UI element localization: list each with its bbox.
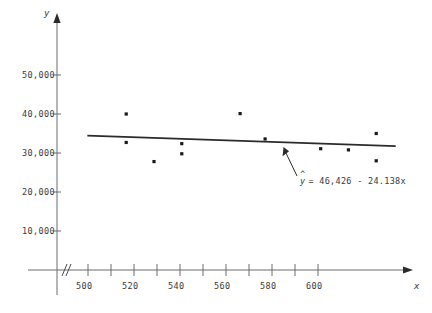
equation-text: = 46,426 - 24.138x xyxy=(308,176,406,186)
x-tick-label-540: 540 xyxy=(168,281,185,291)
x-tick-label-580: 580 xyxy=(260,281,277,291)
x-tick-label-600: 600 xyxy=(306,281,323,291)
x-axis-arrowhead xyxy=(403,266,413,273)
data-point xyxy=(264,137,267,140)
data-point xyxy=(375,159,378,162)
y-hat-symbol: ^y xyxy=(300,176,305,186)
regression-equation-label: ^y = 46,426 - 24.138x xyxy=(300,176,406,186)
x-tick-label-560: 560 xyxy=(214,281,231,291)
data-point xyxy=(125,112,128,115)
data-point xyxy=(152,160,155,163)
data-point xyxy=(239,112,242,115)
data-point xyxy=(180,152,183,155)
data-point xyxy=(347,148,350,151)
y-tick-label-50000: 50,000 xyxy=(22,70,55,80)
x-tick-label-500: 500 xyxy=(76,281,93,291)
x-axis-label: x xyxy=(414,281,419,291)
hat-accent: ^ xyxy=(300,170,305,179)
data-point xyxy=(319,147,322,150)
y-axis-label: y xyxy=(44,8,49,18)
y-tick-label-30000: 30,000 xyxy=(22,148,55,158)
data-point xyxy=(125,141,128,144)
y-axis-arrowhead xyxy=(53,13,60,23)
scatter-plot-figure: 50,000 40,000 30,000 20,000 10,000 500 5… xyxy=(0,0,432,313)
data-point xyxy=(375,132,378,135)
y-tick-label-20000: 20,000 xyxy=(22,187,55,197)
annotation-arrow xyxy=(283,147,297,176)
plot-canvas xyxy=(0,0,432,313)
data-point xyxy=(180,142,183,145)
x-tick-label-520: 520 xyxy=(122,281,139,291)
regression-line xyxy=(87,136,395,146)
y-tick-label-40000: 40,000 xyxy=(22,109,55,119)
y-tick-label-10000: 10,000 xyxy=(22,226,55,236)
